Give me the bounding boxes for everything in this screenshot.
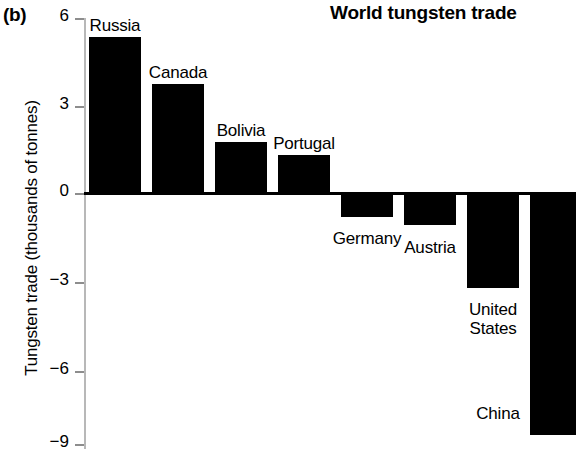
bar-germany[interactable]	[341, 193, 393, 217]
panel-label: (b)	[3, 4, 26, 26]
bar-portugal[interactable]	[278, 155, 330, 193]
bar-china[interactable]	[530, 193, 576, 435]
y-tick-label-minus3: −3	[29, 270, 69, 290]
y-tick-minus3: −3	[75, 282, 84, 284]
y-tick-label-minus6: −6	[29, 359, 69, 379]
bar-united-states[interactable]	[467, 193, 519, 288]
bar-austria[interactable]	[404, 193, 456, 225]
bar-label-canada: Canada	[142, 63, 214, 82]
bar-label-china: China	[462, 404, 534, 423]
bar-russia[interactable]	[89, 37, 141, 193]
y-axis-line	[84, 18, 86, 449]
plot-area: 6 3 0 −3 −6 −9 Russia Canada Bolivia	[84, 14, 576, 449]
y-tick-3: 3	[75, 106, 84, 108]
bar-canada[interactable]	[152, 84, 204, 193]
y-tick-label-0: 0	[29, 181, 69, 201]
bar-label-united-states-line2: States	[457, 319, 529, 338]
figure-panel-b: (b) World tungsten trade Tungsten trade …	[0, 0, 576, 464]
y-tick-0: 0	[75, 193, 84, 195]
y-tick-minus9: −9	[75, 444, 84, 446]
bar-label-portugal: Portugal	[265, 134, 343, 153]
y-tick-label-3: 3	[29, 94, 69, 114]
bar-label-russia: Russia	[79, 16, 151, 35]
bar-bolivia[interactable]	[215, 142, 267, 193]
bar-label-austria: Austria	[394, 238, 466, 257]
y-tick-minus6: −6	[75, 371, 84, 373]
bar-label-united-states-line1: United	[457, 300, 529, 319]
y-tick-label-minus9: −9	[29, 432, 69, 452]
y-tick-label-6: 6	[29, 6, 69, 26]
